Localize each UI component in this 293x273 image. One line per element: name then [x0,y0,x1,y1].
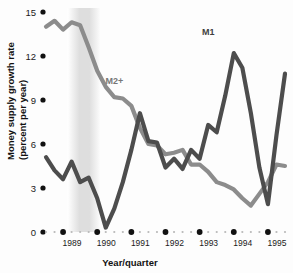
y-axis-tick-label: 0 [31,227,36,238]
x-axis-tick-label: 1991 [131,238,150,248]
x-axis-quarter-dot [258,231,260,233]
x-axis-quarter-dot [113,231,115,233]
x-axis-quarter-dot [45,231,47,233]
x-axis-year-dot [60,229,66,235]
x-axis-quarter-dot [53,231,55,233]
x-axis-tick-label: 1992 [165,238,184,248]
x-axis-year-dot [163,229,169,235]
x-axis-year-dot [197,229,203,235]
y-axis-tick-dot [40,53,45,58]
x-axis-year-dot [94,229,100,235]
x-axis-quarter-dot [207,231,209,233]
x-axis-quarter-dot [181,231,183,233]
x-axis-tick-label: 1995 [267,238,286,248]
x-axis-quarter-dot [139,231,141,233]
x-axis-quarter-dot [190,231,192,233]
x-axis-quarter-dot [122,231,124,233]
x-axis-tick-label: 1994 [233,238,252,248]
series-label-m2plus: M2+ [105,76,123,86]
x-axis-tick-label: 1993 [199,238,218,248]
y-axis-tick-label: 3 [31,183,36,194]
x-axis-quarter-dot [173,231,175,233]
y-axis-tick-label: 15 [25,7,36,18]
x-axis-quarter-dot [275,231,277,233]
x-axis-tick-label: 1989 [63,238,82,248]
x-axis-quarter-dot [241,231,243,233]
y-axis-tick-label: 12 [25,51,36,62]
x-axis-title: Year/quarter [102,257,158,268]
y-axis-title-line2: (percent per year) [17,80,28,160]
chart-canvas: 03691215 1989199019911992199319941995 M2… [0,0,293,273]
y-axis-tick-dot [40,97,45,102]
y-axis-tick-label: 9 [31,95,36,106]
x-axis-year-dot [231,229,237,235]
x-axis-quarter-dot [216,231,218,233]
x-axis-year-dot [128,229,134,235]
x-axis-quarter-dot [156,231,158,233]
x-axis-quarter-dot [79,231,81,233]
x-axis-quarter-dot [250,231,252,233]
y-axis-tick-dot [40,185,45,190]
money-supply-growth-chart: 03691215 1989199019911992199319941995 M2… [0,0,293,273]
x-axis-tick-label: 1990 [97,238,116,248]
y-axis-tick-dot [40,9,45,14]
y-axis-tick-label: 6 [31,139,36,150]
x-axis-year-dot [265,229,271,235]
x-axis-quarter-dot [71,231,73,233]
y-axis-tick-dot [40,141,45,146]
y-axis-tick-dot [40,229,45,234]
x-axis-quarter-dot [147,231,149,233]
x-axis-quarter-dot [284,231,286,233]
x-axis-quarter-dot [224,231,226,233]
series-label-m1: M1 [202,27,215,37]
y-axis-title-line1: Money supply growth rate [5,42,16,160]
x-axis-quarter-dot [105,231,107,233]
x-axis-quarter-dot [88,231,90,233]
